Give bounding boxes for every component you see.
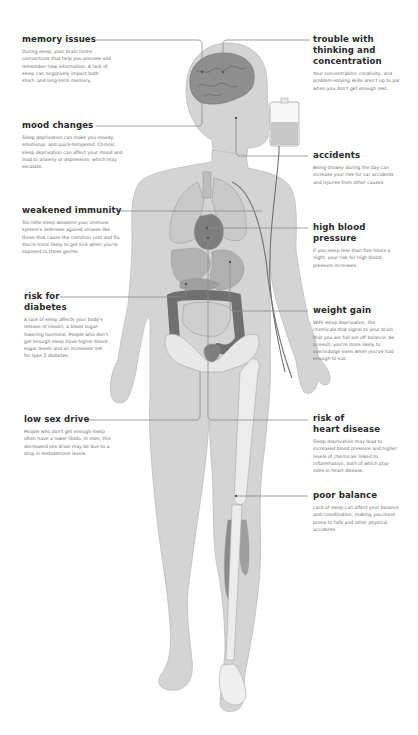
heart bbox=[194, 214, 223, 250]
callout-memory-issues: memory issues During sleep, your brain f… bbox=[22, 34, 112, 84]
callout-title-line2: thinking and bbox=[313, 45, 413, 56]
callout-low-sex-drive: low sex drive People who don't get enoug… bbox=[24, 414, 116, 457]
leader-dot bbox=[222, 71, 224, 73]
callout-title: memory issues bbox=[22, 34, 112, 45]
callout-weight-gain: weight gain With sleep deprivation, the … bbox=[313, 305, 397, 363]
callout-text: Being drowsy during the day can increase… bbox=[313, 164, 401, 186]
callout-title: poor balance bbox=[313, 490, 401, 501]
callout-heart-disease: risk of heart disease Sleep deprivation … bbox=[313, 413, 399, 474]
callout-text: If you sleep less than five hours a nigh… bbox=[313, 247, 393, 269]
callout-text: During sleep, your brain forms connectio… bbox=[22, 48, 112, 84]
callout-text: With sleep deprivation, the chemicals th… bbox=[313, 319, 397, 363]
leader-dot bbox=[206, 227, 208, 229]
callout-weakened-immunity: weakened immunity Too little sleep weake… bbox=[22, 205, 122, 255]
callout-text: Lack of sleep can affect your balance an… bbox=[313, 504, 401, 533]
iv-bag-cap bbox=[281, 98, 288, 103]
callout-poor-balance: poor balance Lack of sleep can affect yo… bbox=[313, 490, 401, 533]
callout-title: low sex drive bbox=[24, 414, 116, 425]
callout-text: Too little sleep weakens your immune sys… bbox=[22, 219, 122, 255]
callout-title-line1: high blood bbox=[313, 222, 393, 233]
callout-title: accidents bbox=[313, 150, 401, 161]
callout-title: mood changes bbox=[22, 120, 126, 131]
leader-dot bbox=[207, 237, 209, 239]
trachea bbox=[203, 172, 211, 198]
callout-title-line2: diabetes bbox=[24, 302, 110, 313]
callout-accidents: accidents Being drowsy during the day ca… bbox=[313, 150, 401, 186]
callout-title-line2: heart disease bbox=[313, 424, 399, 435]
iv-bag-fluid bbox=[271, 122, 298, 145]
callout-risk-for-diabetes: risk for diabetes A lack of sleep affect… bbox=[24, 291, 110, 360]
callout-text: Sleep deprivation may lead to increased … bbox=[313, 438, 399, 474]
callout-text: A lack of sleep affects your body's rele… bbox=[24, 316, 110, 360]
callout-trouble-thinking: trouble with thinking and concentration … bbox=[313, 34, 413, 92]
leader-dot bbox=[229, 261, 231, 263]
callout-text: Your concentration, creativity, and prob… bbox=[313, 70, 413, 92]
callout-title-line1: trouble with bbox=[313, 34, 413, 45]
leader-dot bbox=[235, 117, 237, 119]
leader-dot bbox=[201, 71, 203, 73]
callout-high-blood-pressure: high blood pressure If you sleep less th… bbox=[313, 222, 393, 269]
callout-mood-changes: mood changes Sleep deprivation can make … bbox=[22, 120, 126, 170]
callout-text: Sleep deprivation can make you moody, em… bbox=[22, 134, 126, 170]
body-diagram bbox=[0, 0, 418, 735]
callout-text: People who don't get enough sleep often … bbox=[24, 428, 116, 457]
callout-title-line2: pressure bbox=[313, 233, 393, 244]
callout-title-line1: risk of bbox=[313, 413, 399, 424]
leader-dot bbox=[235, 495, 237, 497]
callout-title-line1: risk for bbox=[24, 291, 110, 302]
callout-title: weight gain bbox=[313, 305, 397, 316]
leader-dot bbox=[185, 283, 187, 285]
callout-title-line3: concentration bbox=[313, 56, 413, 67]
callout-title: weakened immunity bbox=[22, 205, 122, 216]
